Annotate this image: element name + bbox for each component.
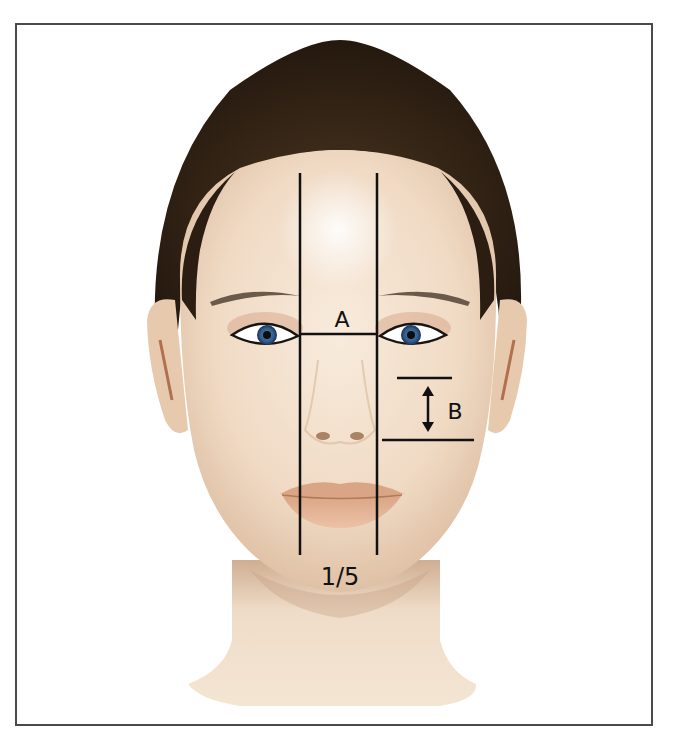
label-one-fifth: 1/5 (321, 563, 360, 591)
right-nostril (350, 432, 364, 440)
left-pupil (263, 331, 271, 339)
label-b: B (447, 399, 462, 424)
right-pupil (407, 331, 415, 339)
left-nostril (316, 432, 330, 440)
face-diagram: A B 1/5 (0, 0, 673, 736)
forehead-highlight (278, 170, 398, 290)
label-a: A (334, 307, 349, 332)
